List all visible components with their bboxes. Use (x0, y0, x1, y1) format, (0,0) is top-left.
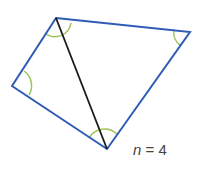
diagonal-line (56, 18, 107, 149)
n-label: n = 4 (133, 141, 167, 158)
quadrilateral-diagram (0, 0, 199, 169)
diagram-canvas: n = 4 (0, 0, 199, 169)
angle-arc-left (24, 71, 32, 95)
n-value: 4 (158, 141, 166, 158)
n-variable: n (133, 141, 141, 158)
equals-sign: = (146, 141, 155, 158)
angle-arc-right (174, 30, 181, 46)
